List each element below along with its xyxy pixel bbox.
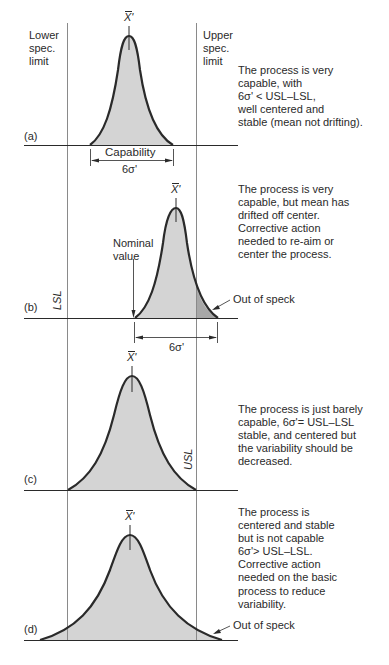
panel-c-graphic <box>24 366 238 491</box>
upper-spec-limit-label: Upper spec. limit <box>203 29 233 68</box>
panel-b-graphic <box>24 198 238 343</box>
panel-tag-a: (a) <box>24 130 37 142</box>
description-a: The process is very capable, with 6σ' < … <box>238 64 363 129</box>
panel-d-graphic <box>24 525 238 641</box>
out-of-spec-label-b: Out of speck <box>233 293 295 306</box>
lower-spec-limit-label: Lower spec. limit <box>29 29 59 68</box>
description-c: The process is just barely capable, 6σ'=… <box>238 403 363 468</box>
usl-rotated-label: USL <box>182 449 194 470</box>
panel-tag-d: (d) <box>24 623 37 635</box>
panel-tag-b: (b) <box>24 301 37 313</box>
six-sigma-label-b: 6σ' <box>169 341 184 353</box>
six-sigma-label-a: 6σ' <box>122 163 137 175</box>
nominal-value-label: Nominal value <box>113 237 153 263</box>
lsl-rotated-label: LSL <box>51 290 63 310</box>
description-b: The process is very capable, but mean ha… <box>238 183 349 262</box>
out-of-spec-label-d: Out of speck <box>233 619 295 632</box>
mean-label-d: X' <box>125 510 134 522</box>
mean-label-a: X' <box>124 11 133 23</box>
mean-label-b: X' <box>171 183 180 195</box>
capability-label: Capability <box>105 146 156 159</box>
description-d: The process is centered and stable but i… <box>238 506 337 611</box>
panel-tag-c: (c) <box>24 473 37 485</box>
mean-label-c: X' <box>127 351 136 363</box>
